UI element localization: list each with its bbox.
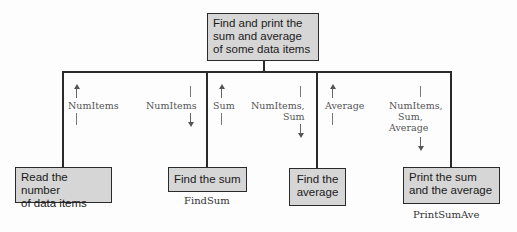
module-box-print: Print the sum and the average	[403, 167, 500, 204]
root-line-2: sum and average	[213, 30, 313, 43]
average-line-1: Find the	[295, 173, 340, 186]
module-box-read: Read the number of data items	[15, 167, 112, 203]
print-line-2: and the average	[409, 184, 494, 197]
flow-stub	[76, 113, 77, 125]
flow-stub	[300, 86, 301, 97]
flow-label-sum-up: Sum	[213, 100, 235, 111]
module-box-average: Find the average	[289, 168, 346, 206]
flow-label-numitems-down: NumItems	[146, 100, 197, 111]
flow-stub	[420, 86, 421, 97]
read-line-1: Read the number	[21, 171, 106, 197]
structure-chart: Find and print the sum and average of so…	[0, 0, 517, 232]
arrow-up-icon	[221, 88, 222, 98]
root-line-3: of some data items	[213, 43, 313, 56]
arrow-up-icon	[332, 88, 333, 98]
drop-read	[62, 71, 64, 167]
root-module-box: Find and print the sum and average of so…	[207, 13, 319, 61]
drop-findsum	[206, 71, 208, 167]
drop-average	[316, 71, 318, 168]
arrow-down-icon	[300, 124, 301, 134]
read-line-2: of data items	[21, 197, 106, 210]
drop-print	[450, 71, 452, 167]
module-name-findsum: FindSum	[184, 195, 230, 206]
module-name-printsumave: PrintSumAve	[413, 209, 479, 220]
flow-stub	[332, 113, 333, 125]
findsum-line-1: Find the sum	[174, 173, 241, 186]
flow-label-numitems-up: NumItems	[68, 100, 119, 111]
arrow-up-icon	[76, 88, 77, 98]
flow-stub	[221, 113, 222, 125]
average-line-2: average	[295, 186, 340, 199]
arrow-down-icon	[420, 137, 421, 147]
flow-label-numitems-sum-down: NumItems, Sum	[251, 100, 305, 122]
module-box-findsum: Find the sum	[168, 167, 247, 192]
print-line-1: Print the sum	[409, 171, 494, 184]
flow-stub	[190, 86, 191, 97]
root-line-1: Find and print the	[213, 17, 313, 30]
bus-line	[62, 71, 452, 73]
flow-label-numitems-sum-average-down: NumItems, Sum, Average	[389, 100, 443, 133]
arrow-down-icon	[190, 113, 191, 123]
flow-label-average-up: Average	[325, 100, 364, 111]
